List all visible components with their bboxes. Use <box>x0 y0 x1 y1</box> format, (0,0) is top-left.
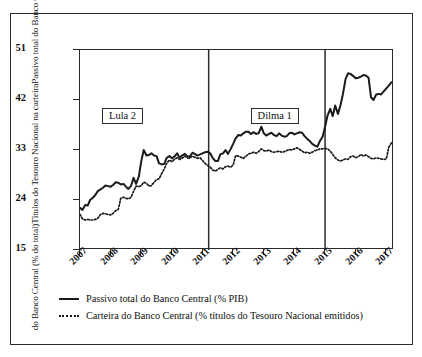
series-line-passivo-total <box>80 73 392 210</box>
annotation-dilma-1: Dilma 1 <box>251 108 299 124</box>
legend-item-carteira: Carteira do Banco Central (% títulos do … <box>59 307 404 324</box>
legend-label-carteira: Carteira do Banco Central (% títulos do … <box>86 310 363 321</box>
series-line-carteira <box>80 143 392 220</box>
y-tick-label-15: 15 <box>0 242 26 253</box>
plot-area <box>79 49 393 249</box>
legend-item-passivo-total: Passivo total do Banco Central (% PIB) <box>59 290 404 307</box>
legend-label-passivo-total: Passivo total do Banco Central (% PIB) <box>86 293 248 304</box>
legend-solid-line-icon <box>59 294 79 304</box>
chart-canvas <box>80 50 394 250</box>
y-axis-title-line-1: Passivo total do Banco Central (% do PIB… <box>30 0 41 84</box>
figure-panel: Passivo total do Banco Central (% do PIB… <box>10 13 413 345</box>
y-tick-label-51: 51 <box>0 42 26 53</box>
legend-dotted-line-icon <box>59 311 79 321</box>
annotation-lula-2: Lula 2 <box>102 108 143 124</box>
y-axis-title-line-2: Títulos do Tesouro Nacional na carteira <box>30 84 41 224</box>
y-axis-title-line-3: do Banco Central (% do total) <box>30 224 41 330</box>
y-tick-label-24: 24 <box>0 192 26 203</box>
y-tick-label-33: 33 <box>0 142 26 153</box>
chart-legend: Passivo total do Banco Central (% PIB) C… <box>59 290 404 324</box>
y-tick-label-42: 42 <box>0 92 26 103</box>
